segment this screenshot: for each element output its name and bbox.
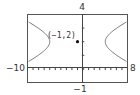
center-point-marker <box>76 40 79 43</box>
ymin-label: −1 <box>73 84 86 94</box>
hyperbola-left-branch <box>29 22 50 61</box>
hyperbola-graph: (−1,2) 4 −1 −10 8 <box>0 0 140 95</box>
hyperbola-right-branch <box>105 22 126 61</box>
xmin-label: −10 <box>6 63 25 73</box>
x-axis-ticks <box>28 68 128 70</box>
xmax-label: 8 <box>130 63 136 73</box>
center-point-label: (−1,2) <box>47 31 76 40</box>
viewing-window-frame <box>28 15 128 83</box>
ymax-label: 4 <box>79 2 85 12</box>
